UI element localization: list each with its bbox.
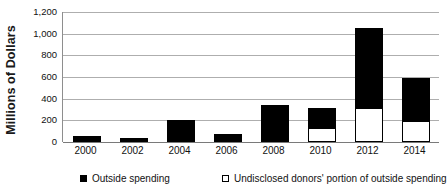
y-axis-tick-1200: 1,200 xyxy=(33,7,57,17)
open-square-icon xyxy=(222,175,229,182)
bar-undisclosed-donors-2014 xyxy=(402,121,430,142)
bar-undisclosed-donors-2008 xyxy=(261,140,289,142)
chart-legend: Outside spending Undisclosed donors' por… xyxy=(0,170,448,186)
y-axis-tick-1000: 1,000 xyxy=(33,29,57,39)
bar-undisclosed-donors-2012 xyxy=(355,108,383,142)
plot-area xyxy=(62,12,439,142)
y-axis-title: Millions of Dollars xyxy=(0,0,22,160)
bar-outside-spending-2002 xyxy=(120,138,148,142)
bar-outside-spending-2008 xyxy=(261,105,289,142)
legend-label-outside-spending: Outside spending xyxy=(92,173,170,184)
x-axis-baseline xyxy=(63,142,439,143)
x-axis-tick-labels: 20002002200420062008201020122014 xyxy=(62,145,438,159)
x-axis-tick-2002: 2002 xyxy=(121,145,143,157)
bar-group-2000 xyxy=(73,12,101,142)
y-axis-tick-400: 400 xyxy=(41,94,57,104)
y-axis-tick-labels: 02004006008001,0001,200 xyxy=(24,0,60,160)
x-axis-tick-2008: 2008 xyxy=(262,145,284,157)
y-axis-title-label: Millions of Dollars xyxy=(4,25,18,135)
bar-group-2014 xyxy=(402,12,430,142)
bar-undisclosed-donors-2010 xyxy=(308,128,336,142)
x-axis-tick-2012: 2012 xyxy=(356,145,378,157)
legend-item-undisclosed-donors: Undisclosed donors' portion of outside s… xyxy=(222,173,447,184)
bar-group-2002 xyxy=(120,12,148,142)
bar-group-2010 xyxy=(308,12,336,142)
x-axis-tick-2000: 2000 xyxy=(74,145,96,157)
bar-group-2012 xyxy=(355,12,383,142)
y-axis-tick-0: 0 xyxy=(52,137,57,147)
bar-group-2006 xyxy=(214,12,242,142)
legend-item-outside-spending: Outside spending xyxy=(80,173,170,184)
filled-square-icon xyxy=(80,175,87,182)
bar-group-2008 xyxy=(261,12,289,142)
bar-outside-spending-2004 xyxy=(167,120,195,142)
bars-layer xyxy=(63,12,439,142)
x-axis-tick-2014: 2014 xyxy=(403,145,425,157)
x-axis-tick-2006: 2006 xyxy=(215,145,237,157)
y-axis-tick-200: 200 xyxy=(41,116,57,126)
bar-outside-spending-2000 xyxy=(73,136,101,142)
y-axis-tick-600: 600 xyxy=(41,72,57,82)
bar-group-2004 xyxy=(167,12,195,142)
bar-outside-spending-2006 xyxy=(214,134,242,142)
x-axis-tick-2004: 2004 xyxy=(168,145,190,157)
x-axis-tick-2010: 2010 xyxy=(309,145,331,157)
y-axis-tick-800: 800 xyxy=(41,51,57,61)
stacked-bar-chart: Millions of Dollars 02004006008001,0001,… xyxy=(0,0,448,192)
legend-label-undisclosed-donors: Undisclosed donors' portion of outside s… xyxy=(234,173,447,184)
